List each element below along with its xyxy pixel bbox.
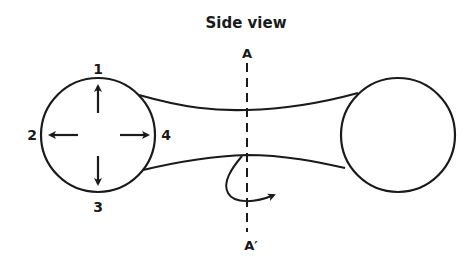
direction-label-3: 3 bbox=[93, 199, 103, 215]
right-sphere bbox=[341, 78, 455, 192]
direction-label-4: 4 bbox=[161, 127, 171, 143]
neck-upper-edge bbox=[139, 93, 358, 110]
diagram-title: Side view bbox=[205, 14, 286, 32]
section-label-top: A bbox=[242, 46, 252, 61]
side-view-diagram: Side view A A′ 1 2 3 4 bbox=[0, 0, 475, 271]
rotation-arrow-icon bbox=[226, 156, 274, 201]
direction-label-2: 2 bbox=[27, 127, 37, 143]
direction-label-1: 1 bbox=[93, 61, 103, 77]
section-label-bottom: A′ bbox=[244, 238, 258, 253]
neck-lower-edge bbox=[143, 155, 345, 170]
